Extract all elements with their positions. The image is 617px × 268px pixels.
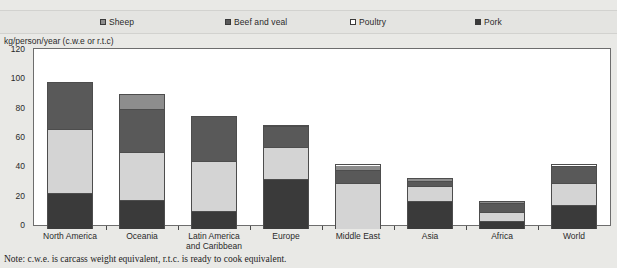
bar-segment-beef-and-veal[interactable] bbox=[336, 171, 380, 184]
x-axis-tick bbox=[394, 226, 395, 230]
stacked-bar[interactable] bbox=[119, 94, 165, 229]
y-axis-tick-label: 60 bbox=[16, 132, 25, 142]
legend-label: Poultry bbox=[359, 17, 386, 27]
plot-area: 020406080100120 bbox=[0, 48, 617, 230]
bar-segment-beef-and-veal[interactable] bbox=[480, 204, 524, 213]
stacked-bar[interactable] bbox=[407, 178, 453, 229]
bar-segment-poultry[interactable] bbox=[192, 162, 236, 211]
y-axis-tick-label: 0 bbox=[20, 220, 25, 230]
bar-column[interactable] bbox=[466, 49, 538, 229]
x-axis-label: Middle East bbox=[322, 232, 394, 258]
stacked-bar[interactable] bbox=[551, 164, 597, 229]
legend-label: Sheep bbox=[109, 17, 134, 27]
legend-swatch-sheep bbox=[100, 19, 106, 25]
x-axis-tick bbox=[250, 226, 251, 230]
legend-label: Beef and veal bbox=[234, 17, 287, 27]
y-axis-tick-label: 80 bbox=[16, 103, 25, 113]
chart-note: Note: c.w.e. is carcass weight equivalen… bbox=[4, 254, 286, 264]
bar-segment-pork[interactable] bbox=[408, 202, 452, 229]
bar-segment-beef-and-veal[interactable] bbox=[552, 167, 596, 184]
bar-column[interactable] bbox=[34, 49, 106, 229]
bar-column[interactable] bbox=[250, 49, 322, 229]
bar-segment-sheep[interactable] bbox=[120, 95, 164, 110]
bar-segment-poultry[interactable] bbox=[480, 213, 524, 221]
top-margin bbox=[0, 0, 617, 10]
legend-swatch-pork bbox=[475, 19, 481, 25]
bar-segment-poultry[interactable] bbox=[264, 148, 308, 180]
legend-swatch-poultry bbox=[350, 19, 356, 25]
bar-segment-pork[interactable] bbox=[48, 194, 92, 229]
bar-segment-beef-and-veal[interactable] bbox=[264, 127, 308, 147]
bar-segment-pork[interactable] bbox=[120, 201, 164, 229]
bar-segment-beef-and-veal[interactable] bbox=[48, 83, 92, 130]
bar-segment-poultry[interactable] bbox=[120, 153, 164, 201]
chart-legend: SheepBeef and vealPoultryPork bbox=[0, 10, 617, 34]
bar-column[interactable] bbox=[106, 49, 178, 229]
stacked-bar[interactable] bbox=[47, 82, 93, 229]
x-axis-label: World bbox=[538, 232, 610, 258]
bar-column[interactable] bbox=[394, 49, 466, 229]
y-axis-tick-label: 40 bbox=[16, 161, 25, 171]
bar-column[interactable] bbox=[322, 49, 394, 229]
stacked-bar[interactable] bbox=[479, 201, 525, 229]
legend-swatch-beef bbox=[225, 19, 231, 25]
bar-segment-beef-and-veal[interactable] bbox=[120, 110, 164, 154]
bar-segment-poultry[interactable] bbox=[48, 130, 92, 194]
stacked-bar[interactable] bbox=[191, 116, 237, 229]
bar-segment-poultry[interactable] bbox=[552, 184, 596, 206]
x-axis-tick bbox=[106, 226, 107, 230]
bar-segment-poultry[interactable] bbox=[408, 187, 452, 201]
stacked-bar[interactable] bbox=[335, 164, 381, 229]
legend-label: Pork bbox=[484, 17, 502, 27]
x-axis-tick bbox=[178, 226, 179, 230]
x-axis-tick bbox=[466, 226, 467, 230]
bar-column[interactable] bbox=[178, 49, 250, 229]
bar-series-container bbox=[34, 49, 610, 229]
bar-column[interactable] bbox=[538, 49, 610, 229]
x-axis-tick bbox=[322, 226, 323, 230]
x-axis-tick bbox=[538, 226, 539, 230]
y-axis-tick-label: 120 bbox=[11, 44, 25, 54]
y-axis-tick-label: 20 bbox=[16, 191, 25, 201]
chart-page: SheepBeef and vealPoultryPork kg/person/… bbox=[0, 0, 617, 268]
bar-segment-poultry[interactable] bbox=[336, 184, 380, 229]
legend-item-sheep[interactable]: Sheep bbox=[100, 17, 225, 27]
legend-item-beef-and-veal[interactable]: Beef and veal bbox=[225, 17, 350, 27]
legend-item-pork[interactable]: Pork bbox=[475, 17, 600, 27]
x-axis-ticks bbox=[34, 226, 610, 230]
y-axis-tick-label: 100 bbox=[11, 73, 25, 83]
y-axis-labels: 020406080100120 bbox=[0, 48, 30, 226]
bar-segment-beef-and-veal[interactable] bbox=[192, 117, 236, 162]
legend-item-poultry[interactable]: Poultry bbox=[350, 17, 475, 27]
x-axis-label: Asia bbox=[394, 232, 466, 258]
stacked-bar[interactable] bbox=[263, 125, 309, 229]
bar-segment-pork[interactable] bbox=[264, 180, 308, 229]
x-axis-label: Africa bbox=[466, 232, 538, 258]
